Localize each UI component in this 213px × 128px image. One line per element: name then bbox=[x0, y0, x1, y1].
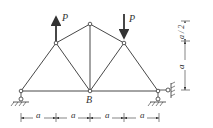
span-label-4: a bbox=[140, 110, 145, 120]
node-upper-left bbox=[54, 41, 58, 45]
node-b-label: B bbox=[86, 94, 92, 105]
load-label-left: P bbox=[61, 12, 68, 23]
member-upper-left-to-top bbox=[56, 24, 90, 43]
node-top bbox=[88, 22, 92, 26]
right-support-pin-horizontal bbox=[166, 88, 170, 92]
left-support bbox=[11, 92, 29, 106]
node-right-support bbox=[156, 89, 160, 93]
span-label-2: a bbox=[71, 110, 76, 120]
height-label-half: a / 2 bbox=[177, 25, 186, 39]
left-support-pin bbox=[19, 97, 23, 101]
span-label-3: a bbox=[105, 110, 110, 120]
member-right-diagonal bbox=[124, 43, 158, 91]
node-left-support bbox=[19, 89, 23, 93]
span-label-1: a bbox=[36, 110, 41, 120]
truss-nodes bbox=[19, 22, 160, 93]
member-top-to-upper-right bbox=[90, 24, 124, 43]
vertical-dimensions: a / 2 a bbox=[176, 21, 190, 90]
node-upper-right bbox=[122, 41, 126, 45]
load-label-right: P bbox=[128, 13, 135, 24]
truss-members bbox=[21, 24, 158, 91]
member-upper-left-to-b bbox=[56, 43, 90, 91]
member-left-diagonal bbox=[21, 43, 56, 91]
right-support-pin-vertical bbox=[156, 97, 160, 101]
node-b bbox=[88, 89, 92, 93]
height-label-main: a bbox=[176, 64, 186, 69]
right-support bbox=[148, 82, 175, 106]
truss-diagram: P P B bbox=[0, 0, 213, 128]
member-upper-right-to-b bbox=[90, 43, 124, 91]
horizontal-dimensions: a a a a bbox=[21, 110, 159, 122]
